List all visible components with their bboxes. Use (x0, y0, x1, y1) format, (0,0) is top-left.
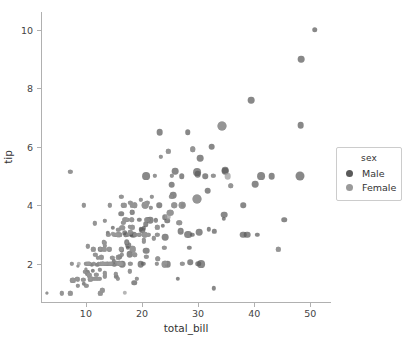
scatter-point (179, 202, 186, 209)
scatter-point (193, 195, 202, 204)
y-tick-label: 10 (21, 24, 33, 35)
legend-item[interactable]: Female (343, 180, 395, 194)
scatter-point (152, 174, 156, 178)
y-tick-mark (37, 147, 41, 148)
scatter-point (218, 122, 227, 131)
y-tick-label: 8 (27, 83, 33, 94)
x-tick-mark (198, 303, 199, 307)
scatter-point (196, 229, 203, 236)
scatter-point (212, 229, 216, 233)
scatter-point (130, 225, 134, 229)
scatter-point (155, 232, 159, 236)
scatter-point (206, 227, 210, 231)
scatter-point (155, 225, 159, 229)
scatter-point (155, 256, 161, 262)
scatter-point (241, 203, 247, 209)
scatter-point (221, 211, 228, 218)
y-axis-spine (41, 12, 42, 303)
scatter-point (132, 203, 138, 209)
scatter-point (211, 174, 215, 178)
scatter-point (68, 291, 72, 295)
scatter-point (159, 155, 163, 159)
scatter-point (156, 129, 163, 136)
scatter-point (190, 146, 196, 152)
scatter-point (129, 217, 135, 223)
scatter-point (202, 173, 208, 179)
scatter-point (167, 209, 174, 216)
scatter-point (132, 252, 138, 258)
y-tick-label: 6 (27, 141, 33, 152)
scatter-plot-figure: 1020304050 246810 total_bill tip sex Mal… (0, 0, 404, 344)
scatter-point (168, 181, 175, 188)
scatter-point (281, 217, 287, 223)
scatter-point (248, 97, 255, 104)
scatter-point (276, 247, 280, 251)
scatter-point (185, 129, 191, 135)
scatter-point (255, 232, 259, 236)
scatter-point (176, 276, 180, 280)
x-tick-mark (86, 303, 87, 307)
scatter-point (119, 225, 125, 231)
scatter-point (296, 172, 305, 181)
scatter-point (106, 232, 110, 236)
scatter-point (100, 288, 104, 292)
scatter-point (312, 27, 318, 33)
y-tick-label: 4 (27, 200, 33, 211)
x-tick-label: 50 (304, 308, 316, 319)
x-axis-spine (41, 302, 331, 303)
scatter-point (224, 173, 231, 180)
scatter-point (228, 183, 234, 189)
scatter-point (187, 260, 193, 266)
scatter-point (197, 155, 204, 162)
scatter-point (166, 149, 170, 153)
legend-entries: MaleFemale (343, 166, 395, 194)
legend-marker-icon (346, 170, 353, 177)
scatter-point (162, 246, 166, 250)
x-tick-label: 20 (136, 308, 148, 319)
scatter-point (118, 261, 124, 267)
y-tick-mark (37, 264, 41, 265)
x-axis-label: total_bill (164, 322, 209, 334)
scatter-point (68, 169, 72, 173)
scatter-point (144, 217, 150, 223)
scatter-point (155, 262, 159, 266)
scatter-point (130, 210, 134, 214)
scatter-point (257, 172, 265, 180)
scatter-point (76, 265, 79, 268)
legend-item[interactable]: Male (343, 166, 395, 180)
scatter-point (137, 217, 141, 221)
scatter-point (176, 220, 182, 226)
legend-marker-icon (346, 184, 353, 191)
scatter-point (171, 203, 177, 209)
scatter-point (116, 276, 120, 280)
y-axis-label: tip (2, 150, 14, 164)
y-tick-mark (37, 88, 41, 89)
scatter-point (108, 203, 112, 207)
scatter-point (298, 56, 305, 63)
scatter-point (120, 253, 124, 257)
y-tick-mark (37, 30, 41, 31)
legend-item-label: Female (362, 182, 396, 193)
x-tick-label: 40 (248, 308, 260, 319)
scatter-point (204, 187, 211, 194)
scatter-point (60, 291, 64, 295)
scatter-point (135, 276, 139, 280)
scatter-point (102, 247, 106, 251)
x-tick-mark (142, 303, 143, 307)
scatter-point (160, 223, 164, 227)
scatter-point (196, 261, 202, 267)
scatter-point (180, 262, 184, 266)
scatter-point (103, 218, 107, 222)
scatter-point (149, 205, 153, 209)
scatter-point (268, 173, 275, 180)
scatter-point (208, 143, 215, 150)
scatter-point (153, 218, 157, 222)
scatter-point (144, 255, 148, 259)
x-tick-mark (254, 303, 255, 307)
scatter-point (93, 221, 97, 225)
scatter-point (157, 203, 163, 209)
y-tick-mark (37, 205, 41, 206)
scatter-point (81, 203, 85, 207)
scatter-point (128, 262, 132, 266)
scatter-point (128, 269, 132, 273)
